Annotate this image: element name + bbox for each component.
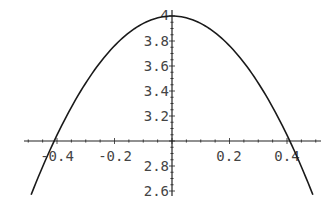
y-tick-label: 3.2	[144, 108, 169, 124]
y-tick-labels: 2.6 2.8 3.2 3.4 3.6 3.8 4	[144, 7, 169, 199]
x-tick-label: 0.2	[216, 148, 241, 164]
x-tick-labels: -0.4 -0.2 0.2 0.4	[40, 148, 300, 164]
plot-area: -0.4 -0.2 0.2 0.4 2.6 2.8 3.2 3.4 3.6 3.…	[0, 0, 333, 210]
y-tick-label: 2.6	[144, 183, 169, 199]
y-tick-label: 3.4	[144, 83, 169, 99]
y-tick-label: 4	[161, 7, 169, 23]
x-tick-label: -0.2	[98, 148, 132, 164]
y-tick-label: 2.8	[144, 158, 169, 174]
y-tick-label: 3.8	[144, 33, 169, 49]
y-tick-label: 3.6	[144, 58, 169, 74]
